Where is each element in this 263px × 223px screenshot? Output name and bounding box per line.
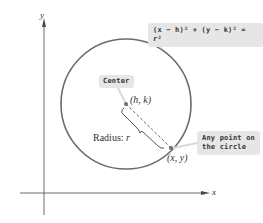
radius-label: Radius: r: [93, 132, 130, 143]
x-axis: [20, 191, 210, 195]
center-callout-text: Center: [103, 77, 130, 85]
point-callout-line2: the circle: [202, 143, 255, 152]
equation-callout: (x − h)² + (y − k)² = r²: [148, 23, 263, 47]
point-callout-line1: Any point on: [202, 134, 255, 143]
radius-line: [126, 104, 171, 148]
equation-text: (x − h)² + (y − k)² = r²: [153, 26, 246, 43]
point-callout: Any point on the circle: [197, 131, 260, 155]
radius-label-var: r: [126, 132, 130, 143]
y-axis-label: y: [40, 10, 44, 20]
x-axis-arrow-icon: [201, 191, 210, 195]
center-point: [124, 102, 128, 106]
diagram-canvas: y x (x − h)² + (y − k)² = r² Center (h, …: [0, 0, 263, 223]
radius-label-prefix: Radius:: [93, 132, 126, 143]
center-callout: Center: [99, 75, 134, 88]
center-leader: [118, 88, 125, 102]
x-axis-label: x: [212, 187, 216, 197]
y-axis: [42, 18, 46, 215]
circle-point-label: (x, y): [167, 152, 188, 163]
center-point-label: (h, k): [130, 94, 151, 105]
circle-point: [169, 146, 173, 150]
